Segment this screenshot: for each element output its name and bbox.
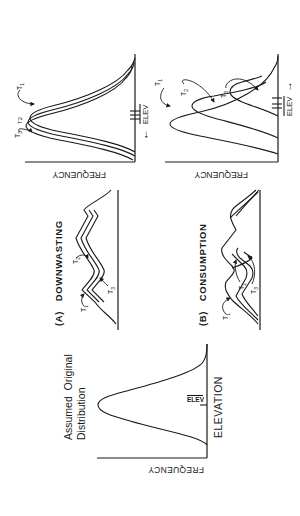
result-a-elev-label: ELEV xyxy=(141,105,150,124)
result-b-t2-label: T2 xyxy=(180,89,189,96)
consumption-t1-arrow xyxy=(223,298,230,314)
original-title-line2: Distribution xyxy=(75,387,87,440)
result-a-mean-shift-arrow: ← xyxy=(138,129,150,140)
consumption-sketch: (B) CONSUMPTION T1 T2 T3 xyxy=(197,190,260,330)
result-a-t3-label: T3 xyxy=(14,131,23,138)
consumption-result-plot: ELEV → T1 T2 T3 FREQUENCY xyxy=(154,54,294,180)
result-a-t1-label: T1 xyxy=(16,83,25,90)
result-b-t3-label: T3 xyxy=(220,91,229,98)
consumption-t1-label: T1 xyxy=(222,313,231,320)
hypsometric-diagram: Assumed Original Distribution ELEV ELEVA… xyxy=(0,0,300,516)
original-distribution-curve xyxy=(98,344,207,445)
result-b-t1-label: T1 xyxy=(154,79,163,86)
downwasting-t3-arrow xyxy=(100,278,108,286)
result-b-frequency-label: FREQUENCY xyxy=(194,170,248,180)
consumption-t2-arrow xyxy=(235,260,240,282)
result-b-elev-label: ELEV xyxy=(285,97,294,116)
downwasting-sketch: (A) DOWNWASTING T1 T2 T3 xyxy=(53,190,118,330)
result-a-frequency-label: FREQUENCY xyxy=(52,170,106,180)
result-b-mean-shift-arrow: → xyxy=(282,81,294,92)
consumption-t3-label: T3 xyxy=(250,287,259,294)
original-mean-elev-label: ELEV xyxy=(187,396,205,403)
downwasting-t1-label: T1 xyxy=(80,305,89,312)
original-title-line1: Assumed Original xyxy=(62,354,74,440)
downwasting-t3-label: T3 xyxy=(107,287,116,294)
downwasting-result-plot: ← ELEV T3 T2 T1 FREQUENCY xyxy=(14,54,150,180)
downwasting-label: (A) DOWNWASTING xyxy=(53,220,64,326)
downwasting-t1-arrow xyxy=(82,294,84,306)
original-frequency-label: FREQUENCY xyxy=(148,465,204,475)
original-distribution-panel: Assumed Original Distribution ELEV ELEVA… xyxy=(62,344,224,475)
result-a-t2-label: T2 xyxy=(17,116,23,124)
original-elevation-label: ELEVATION xyxy=(212,376,224,438)
consumption-label: (B) CONSUMPTION xyxy=(197,223,208,326)
